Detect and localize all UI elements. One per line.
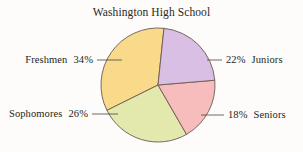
pie-label-seniors-category: Seniors xyxy=(254,109,286,120)
pie-chart-figure: Washington High School Freshmen34% Sopho… xyxy=(0,0,303,152)
pie-label-sophomores: Sophomores26% xyxy=(9,109,88,120)
pie-label-sophomores-value: 26% xyxy=(68,108,88,119)
pie-label-juniors-value: 22% xyxy=(226,54,246,65)
pie-graphic xyxy=(0,0,303,152)
pie-slice-juniors[interactable] xyxy=(158,28,215,85)
pie-label-seniors: 18%Seniors xyxy=(228,110,286,121)
pie-label-freshmen-value: 34% xyxy=(73,54,93,65)
pie-label-juniors-category: Juniors xyxy=(252,54,283,65)
pie-label-sophomores-category: Sophomores xyxy=(9,108,63,119)
pie-label-freshmen-category: Freshmen xyxy=(25,54,67,65)
pie-label-freshmen: Freshmen34% xyxy=(25,55,93,66)
pie-label-seniors-value: 18% xyxy=(228,109,248,120)
pie-label-juniors: 22%Juniors xyxy=(226,55,283,66)
